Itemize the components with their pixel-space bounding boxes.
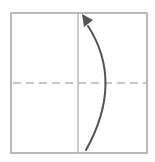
fold-arrow-shaft [86,26,106,150]
arrow-up-icon [82,14,93,27]
origami-fold-diagram [0,0,155,162]
